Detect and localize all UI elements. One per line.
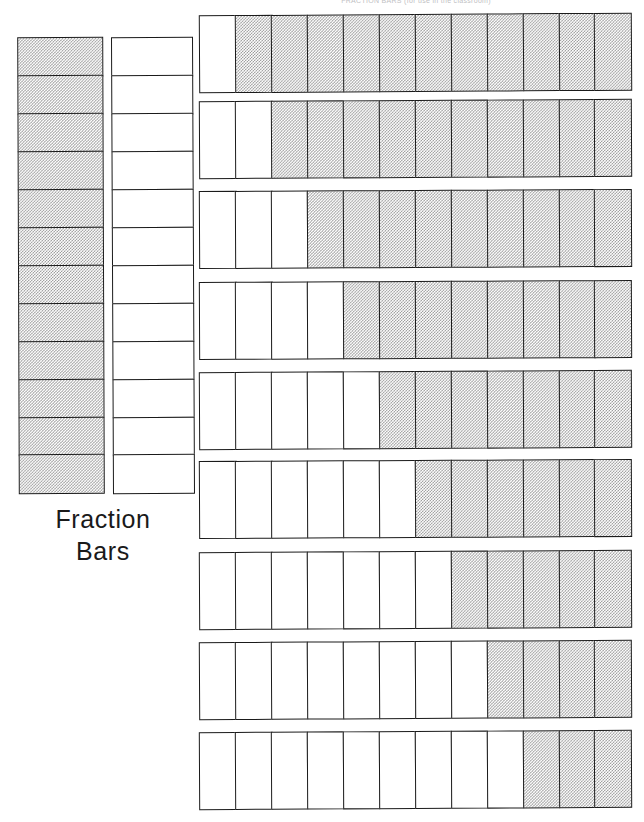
fraction-cell[interactable] <box>522 189 560 267</box>
fraction-cell[interactable] <box>19 416 105 456</box>
fraction-cell[interactable] <box>113 454 195 494</box>
fraction-cell[interactable] <box>343 100 381 178</box>
fraction-cell[interactable] <box>558 370 596 448</box>
fraction-cell[interactable] <box>18 227 104 267</box>
fraction-cell[interactable] <box>415 100 453 178</box>
fraction-cell[interactable] <box>307 731 345 809</box>
fraction-cell[interactable] <box>235 282 273 360</box>
fraction-cell[interactable] <box>271 372 309 450</box>
fraction-cell[interactable] <box>199 191 237 269</box>
fraction-cell[interactable] <box>199 101 237 179</box>
fraction-cell[interactable] <box>112 340 194 380</box>
fraction-cell[interactable] <box>522 13 560 91</box>
fraction-cell[interactable] <box>111 75 193 115</box>
fraction-cell[interactable] <box>271 281 309 359</box>
fraction-cell[interactable] <box>451 281 489 359</box>
fraction-cell[interactable] <box>307 460 345 538</box>
fraction-cell[interactable] <box>112 378 194 418</box>
fraction-cell[interactable] <box>594 730 632 808</box>
fraction-cell[interactable] <box>415 551 453 629</box>
horizontal-fraction-bar-7[interactable] <box>199 550 632 630</box>
fraction-cell[interactable] <box>379 371 417 449</box>
fraction-cell[interactable] <box>18 189 104 229</box>
fraction-cell[interactable] <box>199 461 237 539</box>
fraction-cell[interactable] <box>19 454 105 494</box>
fraction-cell[interactable] <box>307 14 345 92</box>
fraction-cell[interactable] <box>558 640 596 718</box>
fraction-cell[interactable] <box>343 281 381 359</box>
fraction-cell[interactable] <box>594 13 632 91</box>
fraction-cell[interactable] <box>415 641 453 719</box>
fraction-cell[interactable] <box>343 14 381 92</box>
fraction-cell[interactable] <box>486 640 524 718</box>
fraction-cell[interactable] <box>235 15 273 93</box>
fraction-cell[interactable] <box>235 642 273 720</box>
horizontal-fraction-bar-8[interactable] <box>199 640 632 720</box>
fraction-cell[interactable] <box>18 151 104 191</box>
fraction-cell[interactable] <box>558 550 596 628</box>
fraction-cell[interactable] <box>522 370 560 448</box>
horizontal-fraction-bar-3[interactable] <box>199 189 632 269</box>
fraction-cell[interactable] <box>450 641 488 719</box>
fraction-cell[interactable] <box>271 101 309 179</box>
fraction-cell[interactable] <box>522 730 560 808</box>
fraction-cell[interactable] <box>522 99 560 177</box>
fraction-cell[interactable] <box>450 190 488 268</box>
fraction-cell[interactable] <box>343 551 381 629</box>
fraction-cell[interactable] <box>271 191 309 269</box>
fraction-cell[interactable] <box>18 265 104 305</box>
fraction-cell[interactable] <box>558 99 596 177</box>
fraction-cell[interactable] <box>343 641 381 719</box>
fraction-cell[interactable] <box>307 190 345 268</box>
fraction-cell[interactable] <box>379 14 417 92</box>
fraction-cell[interactable] <box>486 550 524 628</box>
fraction-cell[interactable] <box>199 552 237 630</box>
fraction-cell[interactable] <box>199 642 237 720</box>
fraction-cell[interactable] <box>415 731 453 809</box>
fraction-cell[interactable] <box>594 370 632 448</box>
fraction-cell[interactable] <box>415 281 453 359</box>
vertical-fraction-bar-empty[interactable] <box>111 37 195 494</box>
fraction-cell[interactable] <box>594 99 632 177</box>
horizontal-fraction-bar-6[interactable] <box>199 459 632 539</box>
fraction-cell[interactable] <box>17 37 103 77</box>
fraction-cell[interactable] <box>199 732 237 810</box>
fraction-cell[interactable] <box>450 371 488 449</box>
fraction-cell[interactable] <box>594 640 632 718</box>
fraction-cell[interactable] <box>271 732 309 810</box>
fraction-cell[interactable] <box>450 731 488 809</box>
fraction-cell[interactable] <box>18 303 104 343</box>
fraction-cell[interactable] <box>307 551 345 629</box>
fraction-cell[interactable] <box>343 371 381 449</box>
fraction-cell[interactable] <box>450 551 488 629</box>
fraction-cell[interactable] <box>558 730 596 808</box>
fraction-cell[interactable] <box>112 302 194 342</box>
fraction-cell[interactable] <box>112 227 194 267</box>
fraction-cell[interactable] <box>486 730 524 808</box>
fraction-cell[interactable] <box>235 101 273 179</box>
fraction-cell[interactable] <box>379 100 417 178</box>
fraction-cell[interactable] <box>18 340 104 380</box>
fraction-cell[interactable] <box>112 265 194 305</box>
fraction-cell[interactable] <box>558 280 596 358</box>
fraction-cell[interactable] <box>17 75 103 115</box>
fraction-cell[interactable] <box>414 14 452 92</box>
fraction-cell[interactable] <box>271 552 309 630</box>
fraction-cell[interactable] <box>199 372 237 450</box>
fraction-cell[interactable] <box>558 189 596 267</box>
fraction-cell[interactable] <box>486 370 524 448</box>
horizontal-fraction-bar-4[interactable] <box>199 280 632 360</box>
horizontal-fraction-bar-1[interactable] <box>199 13 632 94</box>
fraction-cell[interactable] <box>450 460 488 538</box>
fraction-cell[interactable] <box>379 551 417 629</box>
fraction-cell[interactable] <box>379 731 417 809</box>
fraction-cell[interactable] <box>522 640 560 718</box>
fraction-cell[interactable] <box>379 460 417 538</box>
fraction-cell[interactable] <box>415 190 453 268</box>
fraction-cell[interactable] <box>111 113 193 153</box>
fraction-cell[interactable] <box>113 416 195 456</box>
fraction-cell[interactable] <box>379 641 417 719</box>
fraction-cell[interactable] <box>235 732 273 810</box>
fraction-cell[interactable] <box>235 372 273 450</box>
fraction-cell[interactable] <box>307 281 345 359</box>
